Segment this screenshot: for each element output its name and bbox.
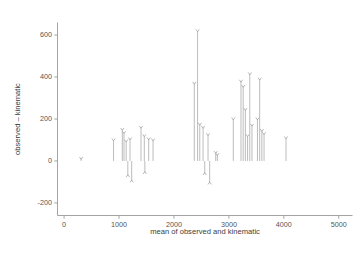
data-point-marker [122, 131, 125, 133]
x-axis-title: mean of observed and kinematic [150, 227, 260, 236]
data-point-marker [79, 157, 82, 159]
data-point-marker [151, 138, 154, 140]
data-point-marker [139, 126, 142, 128]
data-point-marker [206, 133, 209, 135]
chart-container: -2000200400600 010002000300040005000 obs… [0, 0, 364, 271]
data-needles-group [79, 29, 287, 184]
data-point-marker [193, 82, 196, 84]
data-point-marker [216, 153, 219, 155]
y-tick-label: 0 [48, 156, 52, 165]
data-point-marker [203, 173, 206, 175]
y-tick-group: -2000200400600 [38, 30, 58, 207]
x-tick-label: 4000 [276, 220, 292, 229]
data-point-marker [147, 137, 150, 139]
axes-group [58, 23, 353, 216]
data-point-marker [130, 180, 133, 182]
data-point-marker [112, 138, 115, 140]
data-point-marker [244, 108, 247, 110]
scatter-plot: -2000200400600 010002000300040005000 obs… [0, 0, 364, 271]
data-point-marker [239, 80, 242, 82]
data-point-marker [198, 123, 201, 125]
data-point-marker [124, 140, 127, 142]
data-point-marker [262, 132, 265, 134]
x-tick-label: 0 [62, 220, 66, 229]
data-point-marker [196, 29, 199, 31]
data-point-marker [126, 175, 129, 177]
data-point-marker [208, 182, 211, 184]
data-point-marker [248, 72, 251, 74]
data-point-marker [246, 134, 249, 136]
data-point-marker [143, 172, 146, 174]
data-point-marker [214, 151, 217, 153]
y-tick-label: -200 [38, 198, 52, 207]
data-point-marker [232, 118, 235, 120]
data-point-marker [143, 134, 146, 136]
data-point-marker [260, 129, 263, 131]
y-tick-label: 600 [40, 30, 52, 39]
y-axis-title: observed – kinematic [13, 83, 22, 155]
x-tick-label: 1000 [111, 220, 127, 229]
data-point-marker [128, 137, 131, 139]
data-point-marker [284, 136, 287, 138]
data-point-marker [201, 126, 204, 128]
data-point-marker [241, 85, 244, 87]
data-point-marker [121, 128, 124, 130]
data-point-marker [250, 124, 253, 126]
data-point-marker [256, 118, 259, 120]
x-tick-label: 5000 [331, 220, 347, 229]
y-tick-label: 200 [40, 114, 52, 123]
y-tick-label: 400 [40, 72, 52, 81]
data-point-marker [258, 78, 261, 80]
